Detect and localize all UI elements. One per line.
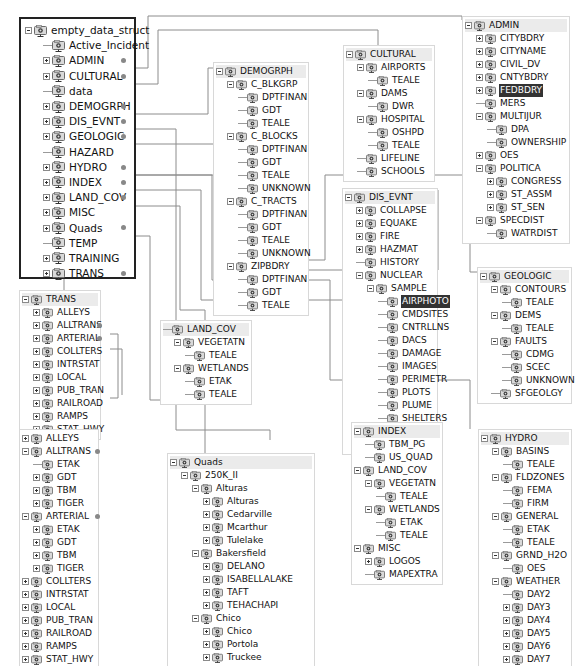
expand-toggle-icon[interactable]: [43, 57, 50, 64]
expand-toggle-icon[interactable]: [33, 500, 40, 507]
tree-node[interactable]: GDT: [216, 156, 306, 169]
expand-toggle-icon[interactable]: [43, 255, 50, 262]
tree-node[interactable]: TRANS: [25, 266, 130, 281]
tree-node[interactable]: UNKNOWN: [480, 374, 569, 387]
collapse-toggle-icon[interactable]: [476, 217, 483, 224]
collapse-toggle-icon[interactable]: [492, 513, 499, 520]
tree-node[interactable]: VEGETATN: [163, 336, 249, 349]
tree-node[interactable]: TEALE: [480, 296, 569, 309]
tree-node[interactable]: Tulelake: [170, 534, 312, 547]
collapse-toggle-icon[interactable]: [357, 64, 364, 71]
collapse-toggle-icon[interactable]: [227, 263, 234, 270]
tree-node[interactable]: Alturas: [170, 495, 312, 508]
collapse-toggle-icon[interactable]: [480, 273, 487, 280]
collapse-toggle-icon[interactable]: [22, 513, 29, 520]
expand-toggle-icon[interactable]: [33, 387, 40, 394]
tree-node[interactable]: TEALE: [346, 74, 432, 87]
tree-node[interactable]: data: [25, 84, 130, 99]
tree-node[interactable]: TBM: [22, 549, 96, 562]
tree-node[interactable]: TEHACHAPI: [170, 599, 312, 612]
collapse-toggle-icon[interactable]: [492, 448, 499, 455]
expand-toggle-icon[interactable]: [43, 225, 50, 232]
collapse-toggle-icon[interactable]: [227, 198, 234, 205]
collapse-toggle-icon[interactable]: [227, 81, 234, 88]
expand-toggle-icon[interactable]: [22, 604, 29, 611]
tree-node[interactable]: GDT: [22, 471, 96, 484]
tree-node[interactable]: UNKNOWN: [216, 182, 306, 195]
tree-node[interactable]: FIRM: [481, 497, 569, 510]
tree-node[interactable]: DAMS: [346, 87, 432, 100]
expand-toggle-icon[interactable]: [33, 526, 40, 533]
expand-toggle-icon[interactable]: [43, 270, 50, 277]
tree-node[interactable]: SPECDIST: [465, 214, 567, 227]
expand-toggle-icon[interactable]: [22, 591, 29, 598]
tree-node[interactable]: Bakersfield: [170, 547, 312, 560]
collapse-toggle-icon[interactable]: [192, 485, 199, 492]
tree-node[interactable]: COLLAPSE: [345, 204, 435, 217]
tree-node[interactable]: TEALE: [163, 388, 249, 401]
expand-toggle-icon[interactable]: [43, 118, 50, 125]
tree-node[interactable]: Active_Incident: [25, 38, 130, 53]
collapse-toggle-icon[interactable]: [481, 435, 488, 442]
tree-node[interactable]: Truckee: [170, 651, 312, 664]
expand-toggle-icon[interactable]: [487, 178, 494, 185]
expand-toggle-icon[interactable]: [503, 617, 510, 624]
expand-toggle-icon[interactable]: [22, 643, 29, 650]
panel-root-node[interactable]: LAND_COV: [163, 323, 249, 336]
expand-toggle-icon[interactable]: [476, 61, 483, 68]
tree-node[interactable]: DPTFINAN: [216, 208, 306, 221]
tree-node[interactable]: SCEC: [480, 361, 569, 374]
expand-toggle-icon[interactable]: [487, 204, 494, 211]
tree-node[interactable]: TEALE: [481, 536, 569, 549]
tree-node[interactable]: AIRPORTS: [346, 61, 432, 74]
tree-node[interactable]: HOSPITAL: [346, 113, 432, 126]
collapse-toggle-icon[interactable]: [356, 272, 363, 279]
collapse-toggle-icon[interactable]: [25, 27, 32, 34]
collapse-toggle-icon[interactable]: [476, 113, 483, 120]
tree-node[interactable]: FEDBDRY: [465, 84, 567, 97]
expand-toggle-icon[interactable]: [476, 152, 483, 159]
tree-node[interactable]: PLOTS: [345, 386, 435, 399]
expand-toggle-icon[interactable]: [33, 348, 40, 355]
tree-node[interactable]: WETLANDS: [163, 362, 249, 375]
expand-toggle-icon[interactable]: [503, 643, 510, 650]
tree-node[interactable]: Cedarville: [170, 508, 312, 521]
tree-node[interactable]: DPTFINAN: [216, 273, 306, 286]
collapse-toggle-icon[interactable]: [492, 552, 499, 559]
tree-node[interactable]: TEALE: [216, 117, 306, 130]
tree-node[interactable]: CNTRLLNS: [345, 321, 435, 334]
expand-toggle-icon[interactable]: [33, 400, 40, 407]
expand-toggle-icon[interactable]: [33, 335, 40, 342]
collapse-toggle-icon[interactable]: [357, 116, 364, 123]
tree-node[interactable]: POLITICA: [465, 162, 567, 175]
collapse-toggle-icon[interactable]: [365, 480, 372, 487]
collapse-toggle-icon[interactable]: [170, 459, 177, 466]
collapse-toggle-icon[interactable]: [181, 472, 188, 479]
tree-node[interactable]: DAY4: [481, 614, 569, 627]
tree-node[interactable]: PERIMETR: [345, 373, 435, 386]
tree-node[interactable]: MERS: [465, 97, 567, 110]
tree-node[interactable]: RAILROAD: [22, 397, 98, 410]
tree-node[interactable]: ST_ASSM: [465, 188, 567, 201]
tree-node[interactable]: ALLTRANS: [22, 445, 96, 458]
expand-toggle-icon[interactable]: [22, 435, 29, 442]
collapse-toggle-icon[interactable]: [354, 467, 361, 474]
panel-root-node[interactable]: DEMOGRPH: [216, 65, 306, 78]
tree-node[interactable]: GDT: [22, 536, 96, 549]
panel-root-node[interactable]: Quads: [170, 456, 312, 469]
tree-node[interactable]: RAMPS: [22, 640, 96, 653]
tree-node[interactable]: DAY5: [481, 627, 569, 640]
tree-node[interactable]: WEATHER: [481, 575, 569, 588]
expand-toggle-icon[interactable]: [33, 552, 40, 559]
collapse-toggle-icon[interactable]: [192, 550, 199, 557]
tree-node[interactable]: NUCLEAR: [345, 269, 435, 282]
tree-node[interactable]: LAND_COV: [354, 464, 440, 477]
tree-node[interactable]: TEALE: [346, 139, 432, 152]
tree-node[interactable]: ETAK: [354, 516, 440, 529]
expand-toggle-icon[interactable]: [365, 558, 372, 565]
tree-node[interactable]: HISTORY: [345, 256, 435, 269]
expand-toggle-icon[interactable]: [203, 563, 210, 570]
tree-node[interactable]: MAPEXTRA: [354, 568, 440, 581]
tree-node[interactable]: RAMPS: [22, 410, 98, 423]
tree-node[interactable]: CITYNAME: [465, 45, 567, 58]
